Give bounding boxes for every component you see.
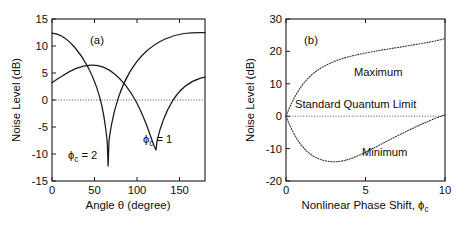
panel-a: 15 10 5 0 -5 -10 -15 0 50 100 150 Noise …	[0, 0, 235, 233]
panel-a-ytick-4: -5	[38, 121, 48, 133]
label-standard-quantum-limit: Standard Quantum Limit	[295, 98, 417, 110]
panel-b-ytick-2: 10	[270, 78, 282, 90]
panel-a-y-axis-label: Noise Level (dB)	[10, 58, 22, 142]
panel-b: 30 20 10 0 -10 -20 0 5 10 Noise Level (d…	[234, 0, 469, 233]
panel-b-x-axis-label-prefix: Nonlinear Phase Shift,	[302, 199, 419, 211]
panel-b-xtick-2: 10	[439, 184, 451, 196]
annotation-phi-c-1: ϕc = 1	[143, 133, 172, 148]
panel-b-ytick-0: 30	[270, 13, 282, 25]
panel-a-ytick-2: 5	[42, 67, 48, 79]
phi-value-right: = 1	[153, 133, 172, 145]
figure-container: 15 10 5 0 -5 -10 -15 0 50 100 150 Noise …	[0, 0, 469, 233]
panel-b-ytick-1: 20	[270, 45, 282, 57]
panel-a-x-axis-label-suffix: (degree)	[124, 199, 170, 211]
panel-a-ytick-5: -10	[32, 148, 48, 160]
panel-b-svg: 30 20 10 0 -10 -20 0 5 10 Noise Level (d…	[234, 0, 469, 233]
panel-a-xtick-1: 50	[88, 184, 100, 196]
panel-b-xtick-1: 5	[362, 184, 368, 196]
panel-a-ytick-3: 0	[42, 94, 48, 106]
panel-b-ytick-5: -20	[266, 175, 282, 187]
panel-b-ytick-4: -10	[266, 143, 282, 155]
curve-phi-c-2	[52, 33, 205, 166]
panel-a-xtick-0: 0	[49, 184, 55, 196]
phi-subscript-axis: c	[424, 205, 428, 214]
phi-value-left: = 2	[78, 149, 97, 161]
panel-b-y-ticks	[286, 19, 290, 181]
panel-b-y-axis-label: Noise Level (dB)	[244, 58, 256, 142]
panel-b-xtick-0: 0	[283, 184, 289, 196]
panel-a-ytick-6: -15	[32, 175, 48, 187]
panel-b-ytick-3: 0	[276, 110, 282, 122]
panel-b-tag: (b)	[304, 34, 318, 46]
panel-a-tag: (a)	[90, 34, 104, 46]
curve-phi-c-1	[52, 65, 205, 150]
panel-a-x-axis-label: Angle θ (degree)	[86, 199, 171, 211]
panel-a-ytick-0: 15	[36, 13, 48, 25]
annotation-phi-c-2: ϕc = 2	[68, 149, 97, 164]
panel-a-xtick-2: 100	[128, 184, 147, 196]
label-minimum: Minimum	[362, 146, 407, 158]
panel-a-xtick-3: 150	[170, 184, 189, 196]
label-maximum: Maximum	[354, 66, 402, 78]
panel-a-svg: 15 10 5 0 -5 -10 -15 0 50 100 150 Noise …	[0, 0, 235, 233]
panel-a-x-axis-label-prefix: Angle	[86, 199, 118, 211]
panel-a-ytick-1: 10	[36, 40, 48, 52]
panel-b-x-axis-label: Nonlinear Phase Shift, ϕc	[302, 199, 429, 214]
